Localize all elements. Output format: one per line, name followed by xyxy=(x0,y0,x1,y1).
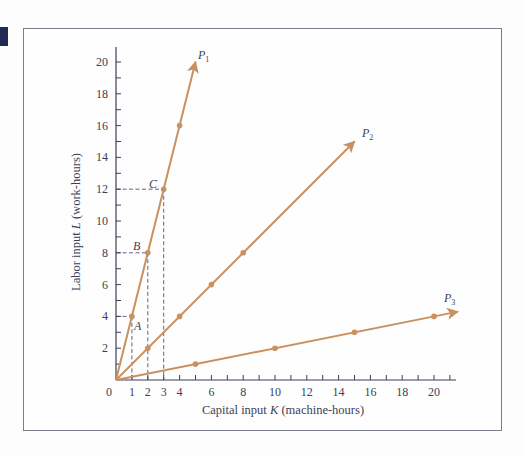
data-point xyxy=(161,186,167,192)
data-point xyxy=(145,250,151,256)
point-label-a: A xyxy=(133,319,142,333)
x-tick-label: 3 xyxy=(161,385,167,399)
x-axis-title: Capital input K (machine-hours) xyxy=(202,403,364,417)
data-point xyxy=(209,282,215,288)
x-tick-label: 12 xyxy=(301,385,313,399)
x-tick-label: 4 xyxy=(177,385,183,399)
x-tick-label: 8 xyxy=(240,385,246,399)
x-tick-label: 2 xyxy=(145,385,151,399)
data-point xyxy=(272,345,278,351)
point-label-c: C xyxy=(149,177,158,191)
x-tick-label: 6 xyxy=(208,385,214,399)
ray-p3 xyxy=(116,312,458,380)
data-point xyxy=(240,250,246,256)
y-tick-label: 2 xyxy=(102,341,108,355)
x-tick-label: 18 xyxy=(396,385,408,399)
y-tick-label: 18 xyxy=(96,87,108,101)
y-tick-label: 10 xyxy=(96,214,108,228)
ray-label-p2: P2 xyxy=(361,126,373,142)
data-point xyxy=(352,330,358,336)
x-tick-label: 10 xyxy=(269,385,281,399)
data-point xyxy=(431,314,437,320)
x-tick-label: 14 xyxy=(333,385,345,399)
origin-label: 0 xyxy=(106,385,112,399)
ray-label-p1: P1 xyxy=(197,48,209,64)
y-tick-label: 16 xyxy=(96,119,108,133)
chart: 1234681012141618202468101214161820 0 Cap… xyxy=(0,0,523,456)
point-label-b: B xyxy=(133,239,141,253)
y-tick-label: 14 xyxy=(96,150,108,164)
x-tick-label: 20 xyxy=(428,385,440,399)
x-tick-label: 16 xyxy=(364,385,376,399)
y-axis-title: Labor input L (work-hours) xyxy=(69,153,83,291)
data-point xyxy=(145,345,151,351)
y-tick-label: 12 xyxy=(96,182,108,196)
y-tick-label: 4 xyxy=(102,309,108,323)
rays xyxy=(116,62,458,380)
data-point xyxy=(177,123,183,129)
x-tick-label: 1 xyxy=(129,385,135,399)
y-tick-label: 20 xyxy=(96,55,108,69)
ray-p1 xyxy=(116,62,196,380)
y-tick-label: 6 xyxy=(102,278,108,292)
data-point xyxy=(177,314,183,320)
ray-label-p3: P3 xyxy=(443,291,455,307)
data-point xyxy=(193,361,199,367)
y-tick-label: 8 xyxy=(102,246,108,260)
